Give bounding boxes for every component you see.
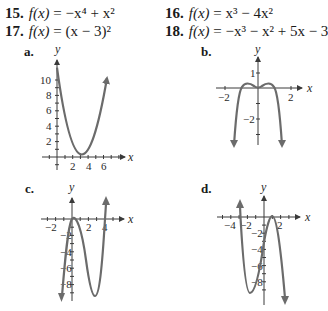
curve-arrow-right [278,140,286,148]
y-axis-label: y [68,180,75,194]
graph-label: c. [25,181,34,196]
y-tick-label: 1 [250,67,256,79]
graph-c: c. x y −2 2 4 −2 −4 −6 −8 [25,180,134,302]
x-tick-label: 4 [86,160,92,172]
graph-b: b. x y −2 2 1 −2 [201,42,313,148]
y-tick-label: 8 [46,89,52,101]
x-tick-label: 2 [288,91,294,103]
y-tick-label: 2 [46,135,52,147]
graph-label: d. [201,181,211,196]
y-tick-label: −6 [60,262,72,274]
curve-arrow-left [236,199,244,208]
y-axis-label: y [254,42,261,56]
x-tick-label: 2 [70,160,76,172]
y-tick-label: −2 [243,113,255,125]
x-axis-label: x [306,81,313,95]
y-tick-label: 4 [46,120,52,132]
x-tick-label: −2 [218,91,230,103]
y-axis-label: y [54,42,61,56]
x-axis-label: x [304,210,311,224]
x-axis-label: x [127,212,134,226]
x-axis-label: x [127,150,134,164]
graph-label: b. [201,44,211,59]
curve-arrow-left [230,140,238,148]
x-tick-label: −2 [45,221,57,233]
graph-d: d. x y −4 −2 2 −2 −4 −6 −8 [201,180,311,305]
x-tick-label: 6 [101,160,107,172]
curve [57,68,107,155]
graph-label: a. [24,44,34,59]
x-tick-label: 2 [86,221,92,233]
curve-arrow-right [102,196,110,205]
x-tick-label: −4 [224,219,236,231]
y-tick-label: 10 [40,74,52,86]
curve-arrow-right [281,296,289,305]
y-tick-label: −2 [251,227,263,239]
graph-a: a. x y 2 4 6 2 4 6 8 10 [24,42,134,172]
y-axis-label: y [260,180,267,194]
curve-arrow-left [58,293,65,302]
y-tick-label: 6 [46,104,52,116]
